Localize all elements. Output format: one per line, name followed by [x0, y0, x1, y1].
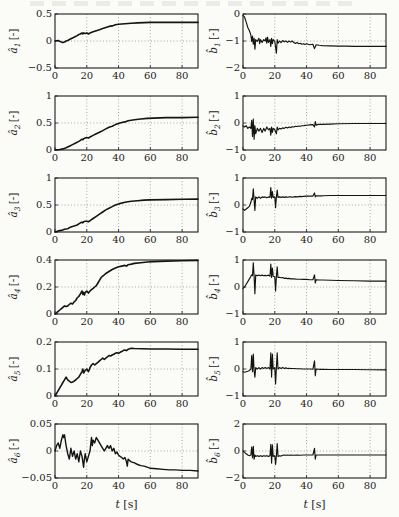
grid-lines [243, 260, 386, 314]
y-tick-labels: −202 [225, 418, 240, 483]
y-tick-label: −2 [225, 62, 240, 73]
plot-frame [243, 260, 386, 314]
tick-marks [55, 260, 182, 314]
tick-marks [243, 424, 370, 478]
y-axis-label-a4: â4 [-] [7, 275, 22, 300]
data-line-b1 [243, 15, 386, 53]
x-tick-label: 40 [112, 398, 125, 409]
x-tick-label: 60 [144, 70, 157, 81]
y-tick-label: −0.5 [28, 62, 52, 73]
y-tick-label: 1 [234, 254, 240, 265]
x-tick-label: 80 [176, 234, 189, 245]
chart-canvas-a2: 02040608000.51â2 [-] [0, 82, 200, 164]
data-line-b4 [243, 263, 386, 294]
y-tick-label: 0 [234, 199, 240, 210]
x-tick-labels: 020406080 [240, 398, 377, 409]
y-axis-label-b2: b̂2 [-] [206, 110, 222, 135]
y-tick-labels: −101 [225, 172, 240, 237]
x-tick-labels: 020406080 [52, 316, 189, 327]
chart-canvas-a5: 02040608000.10.2â5 [-] [0, 328, 200, 410]
x-tick-label: 20 [80, 234, 93, 245]
x-tick-label: 0 [52, 234, 58, 245]
y-tick-labels: 00.51 [36, 172, 52, 237]
tick-marks [243, 178, 370, 232]
data-line-b2 [243, 119, 386, 139]
x-tick-label: 80 [176, 70, 189, 81]
y-tick-labels: −2−10 [225, 8, 240, 73]
y-axis-label-a6: â6 [-] [7, 439, 22, 464]
y-tick-label: −1 [225, 308, 240, 319]
x-tick-label: 80 [364, 234, 377, 245]
x-tick-label: 40 [300, 70, 313, 81]
data-line-a4 [55, 260, 198, 314]
y-tick-labels: 00.20.4 [36, 254, 52, 319]
y-axis-unit: [-] [207, 438, 219, 452]
x-tick-labels: 020406080 [52, 398, 189, 409]
subplot-a4: 02040608000.20.4â4 [-] [0, 246, 200, 328]
y-axis-label-a3: â3 [-] [7, 193, 22, 218]
plot-frame [243, 178, 386, 232]
x-tick-label: 60 [144, 316, 157, 327]
y-axis-unit: [-] [207, 356, 219, 370]
y-axis-label-a2: â2 [-] [7, 111, 22, 136]
chart-canvas-a4: 02040608000.20.4â4 [-] [0, 246, 200, 328]
grid-lines [243, 178, 386, 232]
y-axis-unit: [-] [7, 275, 19, 289]
y-tick-labels: −101 [225, 336, 240, 401]
figure-grid: 020406080−0.500.5â1 [-]020406080−2−10b̂1… [0, 0, 399, 517]
x-tick-label: 60 [332, 152, 345, 163]
subplot-a6: 020406080−0.0500.05â6 [-]t [s] [0, 410, 200, 517]
x-tick-label: 60 [144, 398, 157, 409]
data-line-a5 [55, 348, 198, 396]
x-tick-label: 20 [268, 70, 281, 81]
y-tick-label: 1 [234, 336, 240, 347]
y-axis-label-a1: â1 [-] [7, 29, 22, 54]
y-tick-label: 0 [234, 8, 240, 19]
x-tick-label: 0 [52, 398, 58, 409]
plot-frame [55, 260, 198, 314]
x-tick-label: 0 [52, 316, 58, 327]
y-tick-label: 0 [234, 363, 240, 374]
x-tick-labels: 020406080 [52, 152, 189, 163]
y-tick-label: −2 [225, 472, 240, 483]
x-tick-label: 20 [268, 398, 281, 409]
chart-canvas-a6: 020406080−0.0500.05â6 [-]t [s] [0, 410, 200, 517]
x-tick-labels: 020406080 [52, 234, 189, 245]
x-tick-label: 0 [240, 234, 246, 245]
y-tick-label: 1 [234, 172, 240, 183]
x-tick-labels: 020406080 [52, 480, 189, 491]
x-tick-label: 20 [268, 480, 281, 491]
y-tick-label: 1 [234, 90, 240, 101]
y-axis-label-b3: b̂3 [-] [206, 192, 222, 217]
y-axis-label-b4: b̂4 [-] [206, 274, 222, 299]
tick-marks [55, 342, 182, 396]
x-tick-label: 0 [240, 398, 246, 409]
x-tick-label: 20 [80, 398, 93, 409]
x-tick-label: 60 [332, 398, 345, 409]
y-axis-unit: [-] [7, 357, 19, 371]
data-line-a6 [55, 435, 198, 471]
data-line-a3 [55, 199, 198, 232]
y-tick-label: −1 [225, 35, 240, 46]
x-tick-label: 0 [52, 480, 58, 491]
data-line-b3 [243, 188, 386, 211]
tick-marks [55, 178, 182, 232]
x-tick-label: 40 [300, 152, 313, 163]
y-tick-label: −1 [225, 144, 240, 155]
x-axis-label: t [s] [303, 498, 325, 511]
chart-canvas-b3: 020406080−101b̂3 [-] [200, 164, 399, 246]
x-tick-label: 40 [112, 316, 125, 327]
x-tick-label: 20 [80, 152, 93, 163]
x-tick-label: 0 [52, 152, 58, 163]
subplot-a2: 02040608000.51â2 [-] [0, 82, 200, 164]
x-tick-label: 20 [268, 234, 281, 245]
x-tick-label: 80 [176, 398, 189, 409]
x-tick-label: 20 [80, 316, 93, 327]
x-tick-label: 80 [176, 152, 189, 163]
x-tick-label: 0 [240, 480, 246, 491]
x-tick-label: 0 [240, 316, 246, 327]
y-tick-labels: −101 [225, 90, 240, 155]
y-tick-label: 1 [46, 172, 52, 183]
x-tick-label: 60 [144, 480, 157, 491]
y-axis-unit: [-] [7, 29, 19, 43]
